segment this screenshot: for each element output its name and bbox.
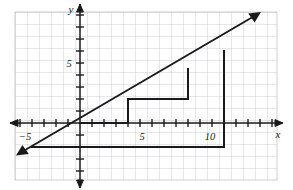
y-tick-label-5: 5	[66, 58, 71, 69]
y-axis-arrow-down	[77, 180, 84, 188]
x-tick-label-10: 10	[205, 131, 216, 142]
graph-canvas: −5 5 10 5 y x	[0, 0, 293, 190]
grid-area	[15, 12, 277, 180]
coordinate-plane-figure: −5 5 10 5 y x	[0, 0, 293, 190]
grid-lines	[15, 12, 277, 180]
x-axis-arrow-right	[275, 120, 283, 127]
y-axis-arrow-up	[77, 4, 84, 12]
x-axis-arrow-left	[10, 120, 18, 127]
x-tick-label-neg5: −5	[19, 131, 31, 142]
x-axis-label: x	[275, 128, 281, 140]
y-axis-label: y	[68, 3, 74, 15]
x-tick-label-5: 5	[139, 131, 144, 142]
